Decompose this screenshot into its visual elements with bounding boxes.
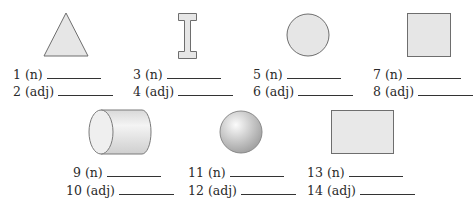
answer-blank-7[interactable] <box>407 77 461 79</box>
answer-blank-9[interactable] <box>107 175 161 177</box>
square-shape <box>408 14 451 57</box>
item-2: 2 (adj) <box>13 86 113 99</box>
item-3: 3 (n) <box>133 69 221 82</box>
item-11: 11 (n) <box>188 167 284 180</box>
answer-blank-11[interactable] <box>230 175 284 177</box>
answer-blank-8[interactable] <box>418 94 473 96</box>
item-8: 8 (adj) <box>373 86 473 99</box>
sphere-shape <box>220 111 262 153</box>
item-label: 13 (n) <box>307 165 345 180</box>
item-9: 9 (n) <box>73 167 161 180</box>
item-1: 1 (n) <box>13 69 101 82</box>
item-label: 11 (n) <box>188 165 226 180</box>
answer-blank-10[interactable] <box>119 193 174 195</box>
item-13: 13 (n) <box>307 167 403 180</box>
item-label: 2 (adj) <box>13 84 54 99</box>
answer-blank-1[interactable] <box>47 77 101 79</box>
answer-blank-2[interactable] <box>58 94 113 96</box>
triangle-shape <box>44 13 88 56</box>
item-label: 10 (adj) <box>66 183 115 198</box>
item-label: 6 (adj) <box>253 84 294 99</box>
answer-blank-4[interactable] <box>178 94 233 96</box>
i-beam-shape <box>179 14 197 59</box>
item-label: 9 (n) <box>73 165 103 180</box>
rectangle-shape <box>332 111 394 154</box>
item-label: 14 (adj) <box>307 183 356 198</box>
item-10: 10 (adj) <box>66 185 174 198</box>
answer-blank-5[interactable] <box>287 77 341 79</box>
item-label: 5 (n) <box>253 67 283 82</box>
answer-blank-3[interactable] <box>167 77 221 79</box>
circle-shape <box>287 14 329 56</box>
answer-blank-6[interactable] <box>298 94 353 96</box>
item-6: 6 (adj) <box>253 86 353 99</box>
item-label: 1 (n) <box>13 67 43 82</box>
answer-blank-13[interactable] <box>349 175 403 177</box>
item-14: 14 (adj) <box>307 185 415 198</box>
item-5: 5 (n) <box>253 69 341 82</box>
item-label: 8 (adj) <box>373 84 414 99</box>
answer-blank-12[interactable] <box>241 193 296 195</box>
item-7: 7 (n) <box>373 69 461 82</box>
item-label: 12 (adj) <box>188 183 237 198</box>
item-12: 12 (adj) <box>188 185 296 198</box>
item-label: 7 (n) <box>373 67 403 82</box>
answer-blank-14[interactable] <box>360 193 415 195</box>
item-label: 3 (n) <box>133 67 163 82</box>
item-4: 4 (adj) <box>133 86 233 99</box>
cylinder-shape <box>89 110 151 154</box>
item-label: 4 (adj) <box>133 84 174 99</box>
